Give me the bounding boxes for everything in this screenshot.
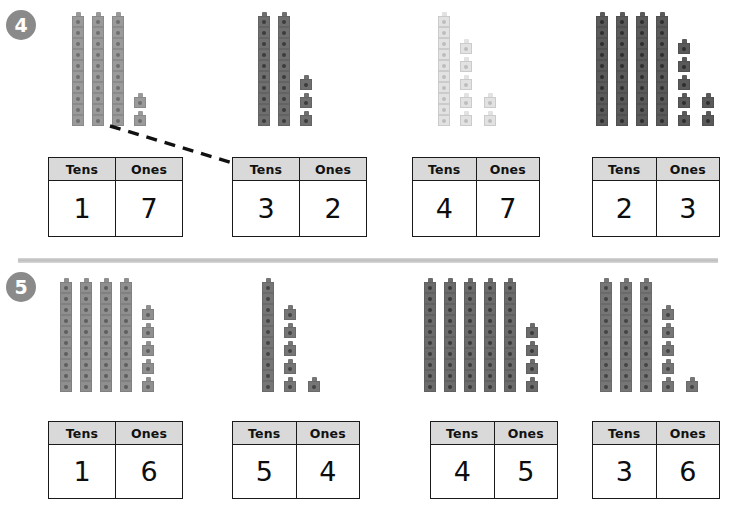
cube: [636, 82, 648, 93]
cube: [120, 326, 132, 337]
place-value-table[interactable]: TensOnes36: [592, 421, 720, 499]
cube: [120, 370, 132, 381]
cube: [72, 49, 84, 60]
ones-value[interactable]: 6: [116, 445, 182, 498]
tens-tower: [484, 278, 496, 392]
cube: [60, 348, 72, 359]
cube: [424, 348, 436, 359]
ones-cube: [678, 93, 690, 108]
place-value-table[interactable]: TensOnes32: [232, 157, 367, 237]
cube: [616, 16, 628, 27]
cube: [636, 38, 648, 49]
ones-value[interactable]: 7: [477, 181, 540, 236]
table-value-row: 23: [593, 181, 719, 236]
tens-tower: [80, 278, 92, 392]
cube: [596, 16, 608, 27]
cube: [258, 16, 270, 27]
cube: [640, 381, 652, 392]
ones-value[interactable]: 6: [657, 445, 720, 498]
place-value-table[interactable]: TensOnes45: [430, 421, 558, 499]
cube: [640, 348, 652, 359]
cube: [142, 309, 154, 320]
cube: [278, 93, 290, 104]
place-value-table[interactable]: TensOnes23: [592, 157, 720, 237]
section-divider: [18, 258, 718, 263]
cube: [60, 315, 72, 326]
cube: [504, 315, 516, 326]
cube: [596, 27, 608, 38]
tens-header: Tens: [49, 158, 116, 180]
tens-header: Tens: [233, 158, 300, 180]
cube: [424, 282, 436, 293]
tens-tower: [60, 278, 72, 392]
cube: [284, 309, 296, 320]
ones-value[interactable]: 3: [657, 181, 720, 236]
cube: [262, 282, 274, 293]
tens-value[interactable]: 5: [233, 445, 297, 498]
cube: [444, 359, 456, 370]
table-header-row: TensOnes: [413, 158, 539, 181]
cube: [262, 370, 274, 381]
worksheet-page: 4 5 TensOnes17TensOnes32TensOnes47TensOn…: [0, 0, 731, 510]
cube: [464, 304, 476, 315]
tens-tower: [120, 278, 132, 392]
cube: [60, 304, 72, 315]
place-value-table[interactable]: TensOnes47: [412, 157, 540, 237]
cube: [278, 71, 290, 82]
cube: [656, 49, 668, 60]
tens-value[interactable]: 2: [593, 181, 657, 236]
ones-value[interactable]: 7: [116, 181, 182, 236]
ones-cube: [678, 111, 690, 126]
cube: [662, 309, 674, 320]
cube: [438, 115, 450, 126]
cube: [112, 16, 124, 27]
ones-value[interactable]: 4: [297, 445, 360, 498]
cube: [100, 315, 112, 326]
cube: [464, 370, 476, 381]
ones-cube: [142, 377, 154, 392]
cube: [656, 71, 668, 82]
tens-value[interactable]: 3: [593, 445, 657, 498]
cube: [636, 115, 648, 126]
tens-value[interactable]: 3: [233, 181, 300, 236]
cube: [308, 381, 320, 392]
place-value-table[interactable]: TensOnes16: [48, 421, 183, 499]
place-value-table[interactable]: TensOnes54: [232, 421, 360, 499]
cube: [284, 345, 296, 356]
tens-value[interactable]: 4: [431, 445, 495, 498]
cube: [60, 381, 72, 392]
cube: [656, 38, 668, 49]
ones-cube: [460, 57, 472, 72]
cube: [262, 337, 274, 348]
cube: [464, 293, 476, 304]
cube: [92, 71, 104, 82]
cube: [72, 27, 84, 38]
tens-value[interactable]: 1: [49, 445, 116, 498]
cube: [262, 359, 274, 370]
cube: [656, 115, 668, 126]
tens-value[interactable]: 1: [49, 181, 116, 236]
cube: [460, 97, 472, 108]
cube: [100, 304, 112, 315]
tens-tower: [262, 278, 274, 392]
tens-value[interactable]: 4: [413, 181, 477, 236]
cube: [92, 60, 104, 71]
cube: [662, 327, 674, 338]
ones-value[interactable]: 5: [495, 445, 558, 498]
cube: [80, 304, 92, 315]
cube: [278, 27, 290, 38]
table-value-row: 16: [49, 445, 182, 498]
table-value-row: 32: [233, 181, 366, 236]
tens-tower: [444, 278, 456, 392]
cube: [444, 293, 456, 304]
cube: [424, 326, 436, 337]
ones-value[interactable]: 2: [300, 181, 366, 236]
cube: [72, 104, 84, 115]
cube: [142, 345, 154, 356]
cube: [640, 337, 652, 348]
cube: [640, 359, 652, 370]
place-value-table[interactable]: TensOnes17: [48, 157, 183, 237]
cube: [616, 93, 628, 104]
ones-header: Ones: [495, 422, 558, 444]
cube: [460, 79, 472, 90]
